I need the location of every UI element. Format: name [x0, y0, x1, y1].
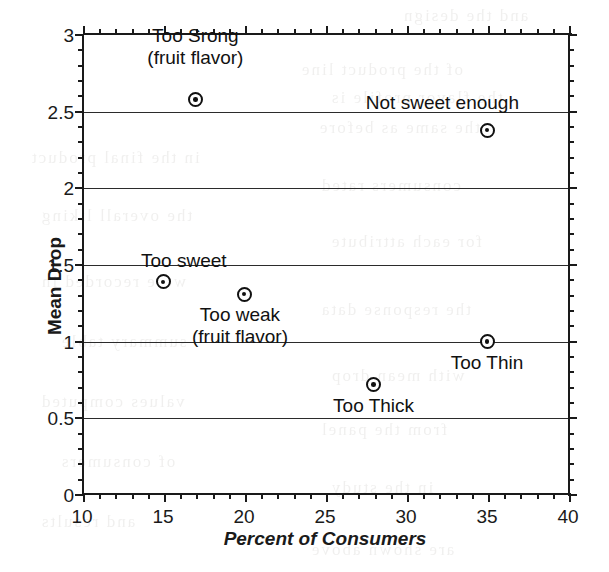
- x-tick-label: 10: [71, 507, 92, 526]
- x-tick-minor: [342, 493, 344, 499]
- x-tick-minor: [148, 493, 150, 499]
- x-tick-top-minor: [358, 29, 360, 35]
- x-tick-minor: [277, 493, 279, 499]
- y-tick-major: [75, 111, 84, 113]
- y-tick-minor: [78, 295, 84, 297]
- x-tick-top-minor: [456, 29, 458, 35]
- y-tick-right-minor: [568, 310, 574, 312]
- y-tick-right-minor: [568, 80, 574, 82]
- x-tick-major: [245, 493, 247, 502]
- x-tick-minor: [196, 493, 198, 499]
- data-point-marker[interactable]: [188, 92, 203, 107]
- x-tick-top-minor: [261, 29, 263, 35]
- y-tick-label: 1: [63, 332, 74, 351]
- y-tick-label: 3: [63, 26, 74, 45]
- y-tick-right-minor: [568, 402, 574, 404]
- y-tick-label: 1.5: [48, 256, 74, 275]
- y-tick-right-minor: [568, 49, 574, 51]
- y-tick-right-minor: [568, 279, 574, 281]
- x-tick-minor: [294, 493, 296, 499]
- x-tick-top-major: [326, 26, 328, 35]
- x-tick-top-minor: [520, 29, 522, 35]
- data-point-marker[interactable]: [480, 334, 495, 349]
- x-tick-top-minor: [99, 29, 101, 35]
- y-tick-minor: [78, 356, 84, 358]
- gridline-y: [84, 418, 570, 419]
- x-tick-top-minor: [310, 29, 312, 35]
- x-tick-minor: [504, 493, 506, 499]
- y-tick-right-minor: [568, 95, 574, 97]
- gridline-y: [84, 342, 570, 343]
- y-tick-right-minor: [568, 325, 574, 327]
- data-point-marker[interactable]: [156, 274, 171, 289]
- x-tick-minor: [472, 493, 474, 499]
- x-tick-top-major: [488, 26, 490, 35]
- y-tick-minor: [78, 402, 84, 404]
- x-tick-minor: [229, 493, 231, 499]
- x-tick-major: [488, 493, 490, 502]
- x-tick-major: [326, 493, 328, 502]
- scatter-plot-figure: and the designof the product linethe fla…: [0, 0, 609, 572]
- x-tick-top-minor: [439, 29, 441, 35]
- y-tick-right-minor: [568, 141, 574, 143]
- y-tick-right-major: [568, 111, 577, 113]
- y-tick-major: [75, 264, 84, 266]
- y-axis-title: Mean Drop: [44, 237, 66, 335]
- x-tick-top-minor: [472, 29, 474, 35]
- y-tick-major: [75, 341, 84, 343]
- x-tick-minor: [553, 493, 555, 499]
- y-tick-minor: [78, 203, 84, 205]
- y-tick-minor: [78, 233, 84, 235]
- x-tick-top-minor: [537, 29, 539, 35]
- x-tick-label: 35: [476, 507, 497, 526]
- y-tick-minor: [78, 49, 84, 51]
- x-tick-minor: [132, 493, 134, 499]
- x-tick-label: 40: [557, 507, 578, 526]
- x-tick-label: 30: [395, 507, 416, 526]
- x-tick-minor: [456, 493, 458, 499]
- x-tick-minor: [537, 493, 539, 499]
- x-tick-top-minor: [391, 29, 393, 35]
- y-tick-right-minor: [568, 479, 574, 481]
- y-tick-major: [75, 417, 84, 419]
- y-tick-right-minor: [568, 356, 574, 358]
- x-tick-minor: [213, 493, 215, 499]
- data-point-marker[interactable]: [237, 287, 252, 302]
- y-tick-right-minor: [568, 249, 574, 251]
- x-tick-label: 25: [314, 507, 335, 526]
- y-tick-right-major: [568, 417, 577, 419]
- x-tick-top-minor: [342, 29, 344, 35]
- point-label: Too Srong (fruit flavor): [147, 25, 243, 69]
- y-tick-minor: [78, 433, 84, 435]
- x-tick-major: [164, 493, 166, 502]
- y-tick-right-minor: [568, 295, 574, 297]
- y-tick-minor: [78, 310, 84, 312]
- y-tick-minor: [78, 218, 84, 220]
- x-tick-top-minor: [504, 29, 506, 35]
- y-tick-label: 0.5: [48, 409, 74, 428]
- x-axis-title: Percent of Consumers: [82, 528, 568, 550]
- y-tick-right-minor: [568, 126, 574, 128]
- point-label: Too Thick: [333, 395, 414, 417]
- y-tick-minor: [78, 463, 84, 465]
- x-tick-top-minor: [115, 29, 117, 35]
- y-tick-right-minor: [568, 371, 574, 373]
- data-point-marker[interactable]: [480, 123, 495, 138]
- x-tick-minor: [99, 493, 101, 499]
- y-tick-right-minor: [568, 433, 574, 435]
- x-tick-top-minor: [375, 29, 377, 35]
- x-tick-top-major: [245, 26, 247, 35]
- x-tick-top-major: [407, 26, 409, 35]
- point-label: Not sweet enough: [366, 92, 519, 114]
- gridline-y: [84, 188, 570, 189]
- y-tick-right-minor: [568, 172, 574, 174]
- y-tick-minor: [78, 65, 84, 67]
- y-tick-minor: [78, 172, 84, 174]
- x-tick-major: [569, 493, 571, 502]
- x-tick-label: 15: [152, 507, 173, 526]
- y-tick-right-major: [568, 187, 577, 189]
- y-tick-right-minor: [568, 463, 574, 465]
- x-tick-minor: [439, 493, 441, 499]
- y-tick-minor: [78, 249, 84, 251]
- y-tick-right-minor: [568, 203, 574, 205]
